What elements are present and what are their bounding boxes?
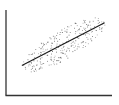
data-point	[103, 22, 104, 23]
data-point	[47, 49, 48, 50]
data-point	[43, 49, 44, 50]
data-point	[82, 42, 83, 43]
data-point	[40, 63, 41, 64]
data-point	[77, 49, 78, 50]
data-point	[89, 34, 90, 35]
data-point	[70, 32, 71, 33]
data-point	[85, 28, 86, 29]
data-point	[60, 34, 61, 35]
data-point	[64, 28, 65, 29]
data-point	[85, 30, 86, 31]
data-point	[56, 46, 57, 47]
data-point	[104, 25, 105, 26]
data-point	[89, 21, 90, 22]
data-point	[91, 32, 92, 33]
data-point	[88, 43, 89, 44]
data-point	[41, 48, 42, 49]
data-point	[90, 39, 91, 40]
data-point	[50, 37, 51, 38]
data-point	[85, 46, 86, 47]
data-point	[50, 48, 51, 49]
data-point	[23, 61, 24, 62]
data-point	[32, 66, 33, 67]
data-point	[40, 54, 41, 55]
data-point	[29, 54, 30, 55]
data-point	[57, 44, 58, 45]
data-point	[25, 67, 26, 68]
data-point	[43, 63, 44, 64]
data-point	[85, 22, 86, 23]
data-point	[51, 43, 52, 44]
data-point	[75, 23, 76, 24]
data-point	[54, 41, 55, 42]
data-point	[99, 29, 100, 30]
data-point	[75, 31, 76, 32]
data-point	[75, 46, 76, 47]
data-point	[75, 33, 76, 34]
data-point	[52, 43, 53, 44]
data-point	[56, 60, 57, 61]
data-point	[54, 64, 55, 65]
data-point	[69, 35, 70, 36]
data-point	[101, 28, 102, 29]
data-point	[47, 61, 48, 62]
data-point	[51, 58, 52, 59]
data-point	[56, 35, 57, 36]
data-point	[54, 38, 55, 39]
data-point	[91, 40, 92, 41]
data-point	[75, 50, 76, 51]
data-point	[40, 59, 41, 60]
data-point	[56, 49, 57, 50]
data-points	[23, 17, 105, 72]
data-point	[41, 64, 42, 65]
data-point	[67, 37, 68, 38]
data-point	[63, 53, 64, 54]
trend-line	[22, 23, 105, 66]
data-point	[74, 28, 75, 29]
data-point	[30, 65, 31, 66]
data-point	[73, 45, 74, 46]
data-point	[51, 57, 52, 58]
data-point	[67, 48, 68, 49]
data-point	[57, 33, 58, 34]
data-point	[32, 54, 33, 55]
data-point	[34, 66, 35, 67]
data-point	[39, 69, 40, 70]
data-point	[63, 46, 64, 47]
data-point	[54, 59, 55, 60]
data-point	[93, 21, 94, 22]
data-point	[89, 22, 90, 23]
data-point	[58, 57, 59, 58]
data-point	[68, 40, 69, 41]
data-point	[31, 69, 32, 70]
data-point	[39, 47, 40, 48]
data-point	[62, 32, 63, 33]
data-point	[80, 26, 81, 27]
data-point	[88, 39, 89, 40]
data-point	[81, 42, 82, 43]
data-point	[49, 65, 50, 66]
data-point	[62, 53, 63, 54]
data-point	[76, 23, 77, 24]
data-point	[71, 46, 72, 47]
data-point	[71, 43, 72, 44]
data-point	[61, 52, 62, 53]
data-point	[95, 17, 96, 18]
data-point	[28, 59, 29, 60]
data-point	[31, 71, 32, 72]
data-point	[34, 60, 35, 61]
data-point	[86, 24, 87, 25]
data-point	[66, 51, 67, 52]
data-point	[54, 57, 55, 58]
data-point	[55, 37, 56, 38]
data-point	[92, 36, 93, 37]
data-point	[79, 28, 80, 29]
data-point	[77, 25, 78, 26]
data-point	[31, 54, 32, 55]
data-point	[87, 26, 88, 27]
data-point	[60, 32, 61, 33]
data-point	[99, 27, 100, 28]
data-point	[36, 71, 37, 72]
data-point	[95, 37, 96, 38]
data-point	[77, 30, 78, 31]
